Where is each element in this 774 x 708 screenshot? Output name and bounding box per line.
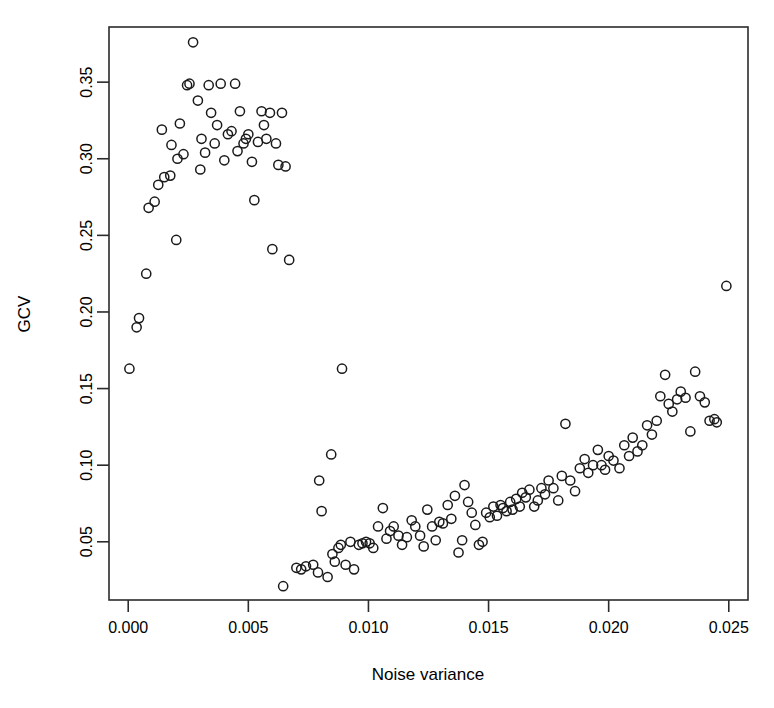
- y-tick-label: 0.05: [79, 526, 96, 557]
- x-tick-label: 0.000: [108, 619, 148, 636]
- y-tick-label: 0.15: [79, 373, 96, 404]
- y-axis-title: GCV: [15, 295, 34, 333]
- x-tick-label: 0.010: [348, 619, 388, 636]
- y-tick-label: 0.35: [79, 66, 96, 97]
- y-tick-label: 0.10: [79, 450, 96, 481]
- y-tick-label: 0.20: [79, 296, 96, 327]
- x-tick-label: 0.020: [589, 619, 629, 636]
- scatter-plot-figure: 0.0000.0050.0100.0150.0200.025 0.050.100…: [0, 0, 774, 708]
- x-axis-title: Noise variance: [372, 665, 484, 684]
- chart-canvas: 0.0000.0050.0100.0150.0200.025 0.050.100…: [0, 0, 774, 708]
- x-tick-label: 0.025: [709, 619, 749, 636]
- x-tick-label: 0.005: [228, 619, 268, 636]
- y-tick-label: 0.25: [79, 220, 96, 251]
- x-tick-label: 0.015: [469, 619, 509, 636]
- y-tick-label: 0.30: [79, 143, 96, 174]
- plot-background: [0, 0, 774, 708]
